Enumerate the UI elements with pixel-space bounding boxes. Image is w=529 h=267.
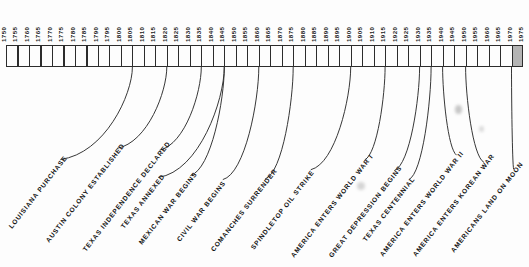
event-label: AMERICA ENTERS WORLD WAR I bbox=[289, 153, 374, 259]
event-label: TEXAS INDEPENDENCE DECLARED bbox=[81, 140, 171, 253]
scan-smudge bbox=[479, 126, 484, 132]
scan-smudge bbox=[357, 182, 365, 190]
event-label-group: LOUISIANA PURCHASEAUSTIN COLONY ESTABLIS… bbox=[0, 0, 529, 267]
scan-smudge bbox=[455, 105, 462, 114]
event-label: AMERICANS LAND ON MOON bbox=[449, 160, 524, 253]
event-label: MEXICAN WAR BEGINS bbox=[137, 170, 198, 245]
timeline-figure: 1750175517601765177017751780178517901795… bbox=[0, 0, 529, 267]
event-label: AUSTIN COLONY ESTABLISHED bbox=[44, 142, 126, 244]
